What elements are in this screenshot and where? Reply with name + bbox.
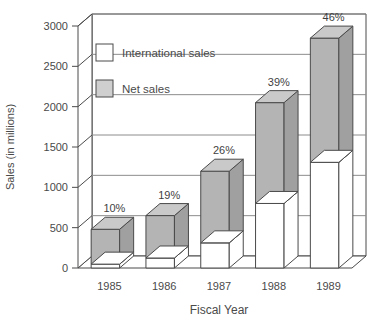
y-tick-label-2500: 2500 <box>44 60 68 72</box>
x-axis-title: Fiscal Year <box>190 303 249 317</box>
bar-1988-net-front <box>256 103 284 204</box>
bar-annotation-1985: 10% <box>103 202 125 214</box>
x-tick-label-1989: 1989 <box>316 280 340 292</box>
x-tick-label-1987: 1987 <box>207 280 231 292</box>
bar-1985-international-front <box>91 264 119 268</box>
x-tick-label-1988: 1988 <box>262 280 286 292</box>
y-tick-label-500: 500 <box>50 222 68 234</box>
legend-swatch-net-sales <box>96 80 113 97</box>
bar-annotation-1989: 46% <box>323 11 345 23</box>
y-tick-label-0: 0 <box>62 262 68 274</box>
bar-1988-international-front <box>256 203 284 268</box>
bar-1988-net-side <box>284 91 298 204</box>
bar-annotation-1988: 39% <box>268 76 290 88</box>
x-tick-label-1985: 1985 <box>97 280 121 292</box>
y-tick-label-2000: 2000 <box>44 101 68 113</box>
y-tick-label-1500: 1500 <box>44 141 68 153</box>
chart-figure: 050010001500200025003000Sales (in millio… <box>0 0 388 326</box>
bar-1988-international-side <box>284 191 298 268</box>
legend-swatch-international-sales <box>96 44 113 61</box>
y-tick-label-3000: 3000 <box>44 20 68 32</box>
bar-annotation-1986: 19% <box>158 189 180 201</box>
legend-label-net-sales: Net sales <box>122 83 170 95</box>
bar-1989-international-front <box>310 162 338 268</box>
bar-1986-international-front <box>146 258 174 268</box>
bar-1989-net-front <box>310 38 338 162</box>
bar-annotation-1987: 26% <box>213 144 235 156</box>
bar-1987-net-side <box>229 159 243 243</box>
bar-1989-international-side <box>339 150 353 268</box>
y-axis-title: Sales (in millions) <box>4 104 16 190</box>
y-tick-label-1000: 1000 <box>44 181 68 193</box>
bar-chart-canvas: 050010001500200025003000Sales (in millio… <box>0 0 388 326</box>
x-tick-label-1986: 1986 <box>152 280 176 292</box>
bar-1987-international-front <box>201 243 229 268</box>
legend-label-international-sales: International sales <box>122 47 216 59</box>
bar-1989-net-side <box>339 26 353 162</box>
